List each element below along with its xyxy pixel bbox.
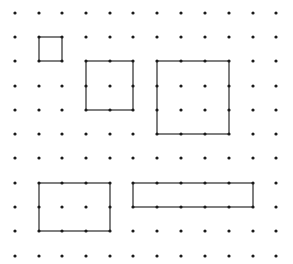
grid-dot (251, 35, 254, 38)
grid-dot (203, 229, 206, 232)
grid-dot (179, 181, 182, 184)
grid-dot (131, 254, 134, 257)
grid-dot (37, 181, 40, 184)
grid-dot (131, 156, 134, 159)
grid-dot (131, 11, 134, 14)
grid-dot (179, 35, 182, 38)
grid-dot (155, 132, 158, 135)
grid-dot (227, 229, 230, 232)
grid-dot (84, 11, 87, 14)
grid-dot (108, 181, 111, 184)
grid-dot (108, 132, 111, 135)
grid-dot (203, 35, 206, 38)
grid-dot (227, 84, 230, 87)
grid-dot (37, 35, 40, 38)
grid-dot (203, 84, 206, 87)
grid-dot (108, 156, 111, 159)
grid-dot (131, 205, 134, 208)
grid-dot (155, 84, 158, 87)
grid-dot (13, 84, 16, 87)
grid-dot (251, 229, 254, 232)
grid-dot (179, 84, 182, 87)
grid-dot (227, 35, 230, 38)
grid-dot (60, 156, 63, 159)
grid-dot (37, 11, 40, 14)
grid-dot (37, 205, 40, 208)
grid-dot (84, 108, 87, 111)
grid-dot (179, 254, 182, 257)
grid-dot (251, 156, 254, 159)
grid-dot (203, 132, 206, 135)
grid-dot (251, 108, 254, 111)
grid-dot (179, 229, 182, 232)
grid-dot (108, 229, 111, 232)
grid-dot (131, 35, 134, 38)
grid-dot (227, 156, 230, 159)
grid-dot (108, 84, 111, 87)
grid-dot (84, 132, 87, 135)
grid-dot (60, 84, 63, 87)
grid-dot (108, 11, 111, 14)
grid-dot (203, 11, 206, 14)
grid-dot (108, 108, 111, 111)
grid-dot (37, 132, 40, 135)
grid-dot (251, 59, 254, 62)
grid-dot (227, 132, 230, 135)
grid-dot (84, 84, 87, 87)
grid-dot (274, 156, 277, 159)
grid-dot (37, 108, 40, 111)
grid-dot (155, 59, 158, 62)
grid-dot (13, 132, 16, 135)
grid-dot (84, 229, 87, 232)
grid-dot (84, 181, 87, 184)
background (0, 0, 293, 264)
grid-dot (274, 108, 277, 111)
grid-dot (251, 84, 254, 87)
grid-dot (84, 205, 87, 208)
grid-dot (131, 59, 134, 62)
grid-dot (203, 205, 206, 208)
grid-dot (13, 205, 16, 208)
grid-dot (108, 59, 111, 62)
grid-dot (227, 181, 230, 184)
grid-dot (13, 11, 16, 14)
grid-dot (13, 108, 16, 111)
grid-dot (203, 254, 206, 257)
grid-dot (13, 229, 16, 232)
grid-dot (227, 11, 230, 14)
grid-dot (251, 132, 254, 135)
grid-dot (203, 108, 206, 111)
grid-dot (84, 59, 87, 62)
grid-dot (227, 59, 230, 62)
grid-dot (37, 254, 40, 257)
grid-dot (179, 59, 182, 62)
grid-dot (179, 132, 182, 135)
grid-dot (60, 35, 63, 38)
grid-dot (203, 181, 206, 184)
grid-dot (251, 181, 254, 184)
grid-dot (131, 108, 134, 111)
grid-dot (37, 229, 40, 232)
grid-dot (60, 181, 63, 184)
grid-dot (37, 59, 40, 62)
grid-dot (274, 35, 277, 38)
grid-dot (13, 59, 16, 62)
grid-dot (179, 11, 182, 14)
grid-dot (155, 108, 158, 111)
grid-dot (155, 11, 158, 14)
grid-dot (131, 181, 134, 184)
grid-dot (227, 108, 230, 111)
grid-dot (131, 132, 134, 135)
grid-dot (179, 205, 182, 208)
grid-dot (60, 59, 63, 62)
grid-dot (108, 254, 111, 257)
grid-dot (203, 156, 206, 159)
grid-dot (131, 84, 134, 87)
grid-dot (13, 35, 16, 38)
grid-dot (60, 254, 63, 257)
grid-dot (108, 205, 111, 208)
grid-dot (60, 229, 63, 232)
dot-grid-diagram (0, 0, 293, 264)
grid-dot (60, 11, 63, 14)
grid-dot (155, 156, 158, 159)
